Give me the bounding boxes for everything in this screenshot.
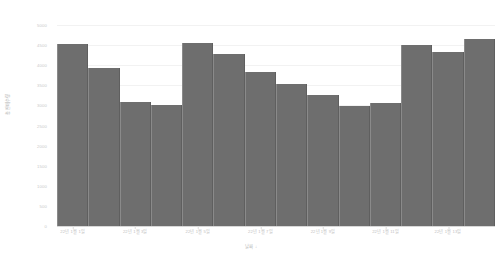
bar[interactable] — [432, 52, 463, 226]
x-axis-tick-mark — [448, 226, 449, 229]
y-axis-tick-label: 3500 — [37, 83, 47, 88]
bar[interactable] — [245, 72, 276, 226]
sort-caret-icon: ↓ — [255, 244, 257, 249]
bar[interactable] — [57, 44, 88, 226]
x-axis-title[interactable]: 날짜↓ — [0, 243, 502, 249]
x-axis-title-label: 날짜 — [245, 244, 253, 249]
y-axis: 5000450040003500300025002000150010005000 — [0, 25, 55, 226]
bar[interactable] — [370, 103, 401, 226]
x-axis-tick-mark — [198, 226, 199, 229]
y-axis-title: 총 판매수량 — [4, 94, 10, 115]
y-axis-tick-label: 5000 — [37, 23, 47, 28]
x-axis-tick: 22년 1월 1일 — [60, 228, 85, 234]
y-axis-tick-label: 0 — [44, 224, 47, 229]
bar[interactable] — [151, 105, 182, 226]
bar[interactable] — [307, 95, 338, 226]
x-axis-tick: 22년 1월 13일 — [435, 228, 462, 234]
y-axis-tick-label: 4000 — [37, 63, 47, 68]
x-axis-tick-mark — [135, 226, 136, 229]
x-axis-tick: 22년 1월 9일 — [311, 228, 336, 234]
bar[interactable] — [120, 102, 151, 226]
y-axis-tick-label: 2500 — [37, 123, 47, 128]
bar[interactable] — [182, 43, 213, 226]
x-axis-tick: 22년 1월 5일 — [186, 228, 211, 234]
bar[interactable] — [88, 68, 119, 226]
bar[interactable] — [401, 45, 432, 226]
y-axis-tick-label: 2000 — [37, 143, 47, 148]
x-axis-tick: 22년 1월 11일 — [372, 228, 399, 234]
bar-series — [57, 25, 495, 226]
x-axis-tick: 22년 1월 7일 — [248, 228, 273, 234]
bar[interactable] — [339, 106, 370, 226]
y-axis-tick-label: 4500 — [37, 43, 47, 48]
y-axis-tick-label: 1500 — [37, 163, 47, 168]
plot-area — [57, 25, 495, 226]
x-axis-tick-mark — [385, 226, 386, 229]
bar-chart: 5000450040003500300025002000150010005000… — [0, 0, 502, 259]
y-axis-tick-label: 500 — [39, 203, 47, 208]
bar[interactable] — [464, 39, 495, 226]
x-axis: 22년 1월 1일22년 1월 3일22년 1월 5일22년 1월 7일22년 … — [57, 228, 495, 240]
bar[interactable] — [213, 54, 244, 226]
x-axis-tick-mark — [73, 226, 74, 229]
x-axis-tick: 22년 1월 3일 — [123, 228, 148, 234]
x-axis-tick-mark — [260, 226, 261, 229]
y-axis-tick-label: 3000 — [37, 103, 47, 108]
y-axis-tick-label: 1000 — [37, 183, 47, 188]
x-axis-line — [57, 226, 495, 227]
x-axis-tick-mark — [323, 226, 324, 229]
bar[interactable] — [276, 84, 307, 226]
